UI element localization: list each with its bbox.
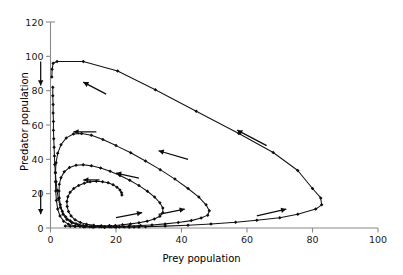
- trajectory-loop-3: [59, 165, 163, 227]
- data-point-marker: [101, 180, 105, 184]
- data-point-marker: [82, 181, 86, 185]
- data-point-marker: [52, 137, 56, 141]
- predator-prey-phase-plot-figure: 020406080100120020406080100 Prey populat…: [0, 0, 403, 275]
- data-point-marker: [108, 170, 112, 174]
- data-point-marker: [82, 163, 86, 167]
- plot-axes: [51, 22, 379, 228]
- data-point-marker: [234, 221, 238, 225]
- data-point-marker: [114, 144, 118, 148]
- data-point-marker: [54, 180, 58, 184]
- y-tick-label: 20: [31, 188, 43, 199]
- data-point-marker: [51, 85, 55, 89]
- data-point-marker: [176, 221, 180, 225]
- data-point-marker: [56, 152, 60, 156]
- data-point-marker: [65, 205, 69, 209]
- trajectory-settling-cluster-left: [53, 87, 87, 226]
- x-tick-label: 80: [306, 234, 318, 245]
- data-point-marker: [153, 217, 157, 221]
- data-point-marker: [65, 200, 69, 204]
- x-tick-label: 40: [175, 234, 187, 245]
- data-point-marker: [296, 213, 300, 217]
- data-point-marker: [58, 182, 62, 186]
- y-tick-label: 120: [25, 17, 43, 28]
- data-point-marker: [199, 216, 203, 220]
- data-point-marker: [90, 164, 94, 168]
- annotation-head-flow-arrow-lower-inner: [137, 211, 143, 216]
- data-point-marker: [99, 166, 103, 170]
- data-point-marker: [90, 134, 94, 138]
- data-point-marker: [74, 163, 78, 167]
- data-point-marker: [51, 94, 55, 98]
- data-point-marker: [255, 219, 259, 223]
- y-tick-label: 80: [31, 85, 43, 96]
- data-point-marker: [53, 154, 57, 158]
- data-point-marker: [51, 103, 55, 107]
- data-point-marker: [163, 222, 167, 226]
- x-tick-label: 100: [369, 234, 387, 245]
- data-point-marker: [209, 222, 213, 226]
- data-point-marker: [55, 60, 59, 64]
- data-point-marker: [101, 138, 105, 142]
- data-point-marker: [52, 128, 56, 132]
- data-point-marker: [206, 213, 210, 217]
- data-point-marker: [52, 146, 56, 150]
- data-point-marker: [82, 60, 86, 64]
- data-point-marker: [145, 219, 149, 223]
- data-point-marker: [51, 61, 55, 64]
- data-point-marker: [66, 195, 70, 199]
- annotation-head-decay-arrow-bottom-axis: [38, 209, 43, 214]
- data-point-marker: [88, 180, 92, 184]
- trajectory-loop-2: [55, 134, 209, 228]
- data-point-marker: [186, 224, 190, 228]
- x-tick-label: 20: [110, 234, 122, 245]
- data-point-marker: [106, 181, 110, 185]
- x-tick-label: 0: [47, 234, 53, 245]
- annotation-head-flow-arrow-lower-mid: [179, 207, 185, 212]
- data-point-marker: [63, 224, 67, 228]
- data-point-marker: [51, 111, 55, 115]
- data-point-marker: [137, 221, 141, 225]
- data-point-marker: [120, 193, 124, 197]
- annotation-head-flow-arrow-lower-right: [281, 208, 287, 213]
- y-tick-label: 40: [31, 154, 43, 165]
- data-point-marker: [116, 69, 120, 73]
- data-point-marker: [278, 216, 282, 220]
- x-tick-label: 60: [241, 234, 253, 245]
- y-tick-label: 60: [31, 120, 43, 131]
- data-point-marker: [56, 207, 60, 211]
- y-tick-label: 0: [37, 223, 43, 234]
- data-point-marker: [190, 219, 194, 223]
- data-point-marker: [52, 120, 56, 124]
- chart-canvas: 020406080100120020406080100: [0, 0, 403, 275]
- y-axis-title: Predator population: [19, 42, 30, 202]
- x-axis-title: Prey population: [0, 253, 403, 264]
